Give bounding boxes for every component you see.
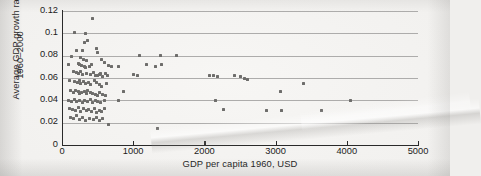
- data-point: [68, 79, 71, 82]
- data-point: [239, 75, 242, 78]
- data-point: [99, 101, 102, 104]
- gridline-horizontal: [62, 11, 418, 12]
- data-point: [349, 99, 352, 102]
- gridline-horizontal: [62, 56, 418, 57]
- data-point: [156, 127, 159, 130]
- y-tick-label: 0.04: [24, 94, 58, 104]
- data-point: [105, 82, 108, 85]
- gridline-horizontal: [62, 123, 418, 124]
- data-point: [75, 49, 78, 52]
- data-point: [122, 90, 125, 93]
- data-point: [96, 51, 99, 54]
- x-tick-mark: [418, 141, 419, 145]
- data-point: [265, 109, 268, 112]
- x-tick-label: 0: [37, 146, 87, 156]
- y-tick-label: 0.1: [24, 27, 58, 37]
- data-point: [132, 73, 135, 76]
- data-point: [79, 110, 82, 113]
- data-point: [88, 117, 91, 120]
- data-point: [70, 55, 73, 58]
- y-tick-label: 0.02: [24, 116, 58, 126]
- gridline-horizontal: [62, 33, 418, 34]
- data-point: [90, 110, 93, 113]
- data-point: [222, 108, 225, 111]
- x-axis-label: GDP per capita 1960, USD: [62, 158, 418, 169]
- data-point: [81, 49, 84, 52]
- data-point: [81, 73, 84, 76]
- data-point: [233, 74, 236, 77]
- x-tick-mark: [133, 141, 134, 145]
- data-point: [93, 107, 96, 110]
- data-point: [117, 99, 120, 102]
- data-point: [279, 90, 282, 93]
- data-point: [302, 82, 305, 85]
- data-point: [73, 31, 76, 34]
- data-point: [103, 107, 106, 110]
- data-point: [160, 63, 163, 66]
- data-point: [100, 85, 103, 88]
- data-point: [138, 54, 141, 57]
- x-tick-label: 4000: [322, 146, 372, 156]
- y-tick-label: 0.06: [24, 72, 58, 82]
- data-point: [83, 41, 86, 44]
- data-point: [77, 106, 80, 109]
- x-tick-mark: [347, 141, 348, 145]
- data-point: [91, 17, 94, 20]
- data-point: [101, 75, 104, 78]
- data-point: [107, 123, 110, 126]
- data-point: [214, 99, 217, 102]
- x-tick-mark: [204, 141, 205, 145]
- data-point: [84, 32, 87, 35]
- data-point: [246, 78, 249, 81]
- x-tick-label: 5000: [393, 146, 443, 156]
- data-point: [75, 114, 78, 117]
- data-point: [154, 65, 157, 68]
- data-point: [320, 109, 323, 112]
- y-tick-label: 0.12: [24, 5, 58, 15]
- data-point: [136, 74, 139, 77]
- data-point: [68, 107, 71, 110]
- data-point: [89, 83, 92, 86]
- data-point: [175, 54, 178, 57]
- gridline-horizontal: [62, 78, 418, 79]
- data-point: [100, 110, 103, 113]
- data-point: [95, 116, 98, 119]
- x-tick-label: 2000: [179, 146, 229, 156]
- data-point: [280, 109, 283, 112]
- data-point: [208, 74, 211, 77]
- data-point: [96, 94, 99, 97]
- y-axis-line: [62, 10, 63, 146]
- gridline-horizontal: [62, 100, 418, 101]
- data-point: [106, 74, 109, 77]
- data-point: [84, 119, 87, 122]
- data-point: [67, 63, 70, 66]
- data-point: [84, 66, 87, 69]
- data-point: [216, 75, 219, 78]
- data-point: [85, 92, 88, 95]
- data-point: [145, 63, 148, 66]
- data-point: [90, 63, 93, 66]
- data-point: [103, 99, 106, 102]
- data-point: [101, 117, 104, 120]
- data-point: [159, 54, 162, 57]
- x-tick-mark: [276, 141, 277, 145]
- data-point: [85, 72, 88, 75]
- data-point: [72, 117, 75, 120]
- data-point: [212, 74, 215, 77]
- data-point: [74, 109, 77, 112]
- data-point: [117, 65, 120, 68]
- data-point: [104, 94, 107, 97]
- x-tick-label: 1000: [108, 146, 158, 156]
- x-tick-label: 3000: [251, 146, 301, 156]
- data-point: [103, 61, 106, 64]
- data-point: [86, 39, 89, 42]
- data-point: [110, 65, 113, 68]
- y-tick-label: 0.08: [24, 49, 58, 59]
- data-point: [85, 59, 88, 62]
